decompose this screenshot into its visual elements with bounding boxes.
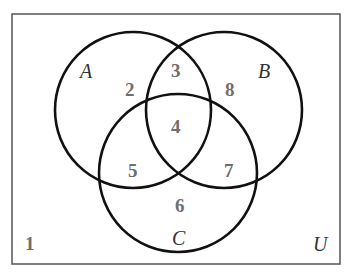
region-outside: 1 xyxy=(25,233,35,254)
region-a-only: 2 xyxy=(125,79,135,100)
set-label-b: B xyxy=(258,60,270,82)
region-b-and-c-only: 7 xyxy=(224,160,234,181)
region-a-and-c-only: 5 xyxy=(128,160,138,181)
venn-diagram: A B C U 2 3 8 4 5 7 6 1 xyxy=(0,0,347,273)
set-label-a: A xyxy=(78,60,93,82)
region-a-and-b-only: 3 xyxy=(171,60,181,81)
set-label-c: C xyxy=(172,227,186,249)
region-c-only: 6 xyxy=(175,195,185,216)
region-a-b-c: 4 xyxy=(171,116,181,137)
region-b-only: 8 xyxy=(225,79,235,100)
universe-label: U xyxy=(313,233,329,255)
